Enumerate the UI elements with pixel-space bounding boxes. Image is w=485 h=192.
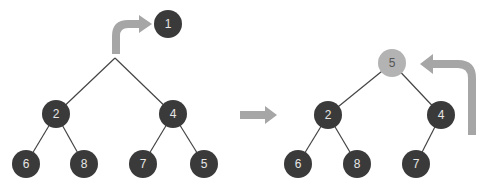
node-6: 6 — [284, 150, 312, 178]
node-label: 5 — [201, 157, 208, 171]
node-label: 8 — [354, 157, 361, 171]
removed-node-1: 1 — [154, 10, 182, 38]
node-2: 2 — [42, 100, 70, 128]
node-8: 8 — [70, 150, 98, 178]
node-5-root-highlight: 5 — [378, 49, 406, 77]
node-label: 7 — [140, 157, 147, 171]
node-4: 4 — [159, 100, 187, 128]
node-2: 2 — [314, 101, 342, 129]
node-label: 2 — [325, 108, 332, 122]
heap-delete-diagram: 1 2 4 6 8 7 5 5 2 4 6 8 7 — [0, 0, 485, 192]
node-7: 7 — [402, 150, 430, 178]
node-label: 4 — [170, 107, 177, 121]
node-7: 7 — [129, 150, 157, 178]
node-label: 2 — [53, 107, 60, 121]
node-label: 6 — [23, 157, 30, 171]
node-4: 4 — [427, 101, 455, 129]
node-8: 8 — [343, 150, 371, 178]
node-label: 8 — [81, 157, 88, 171]
node-label: 1 — [165, 17, 172, 31]
node-label: 4 — [438, 108, 445, 122]
node-5: 5 — [190, 150, 218, 178]
node-label: 7 — [413, 157, 420, 171]
transition-arrow-icon — [240, 106, 277, 124]
node-label: 6 — [295, 157, 302, 171]
extract-arrow-icon — [116, 15, 152, 54]
node-6: 6 — [12, 150, 40, 178]
node-label: 5 — [389, 56, 396, 70]
left-tree-nodes: 2 4 6 8 7 5 — [12, 100, 218, 178]
